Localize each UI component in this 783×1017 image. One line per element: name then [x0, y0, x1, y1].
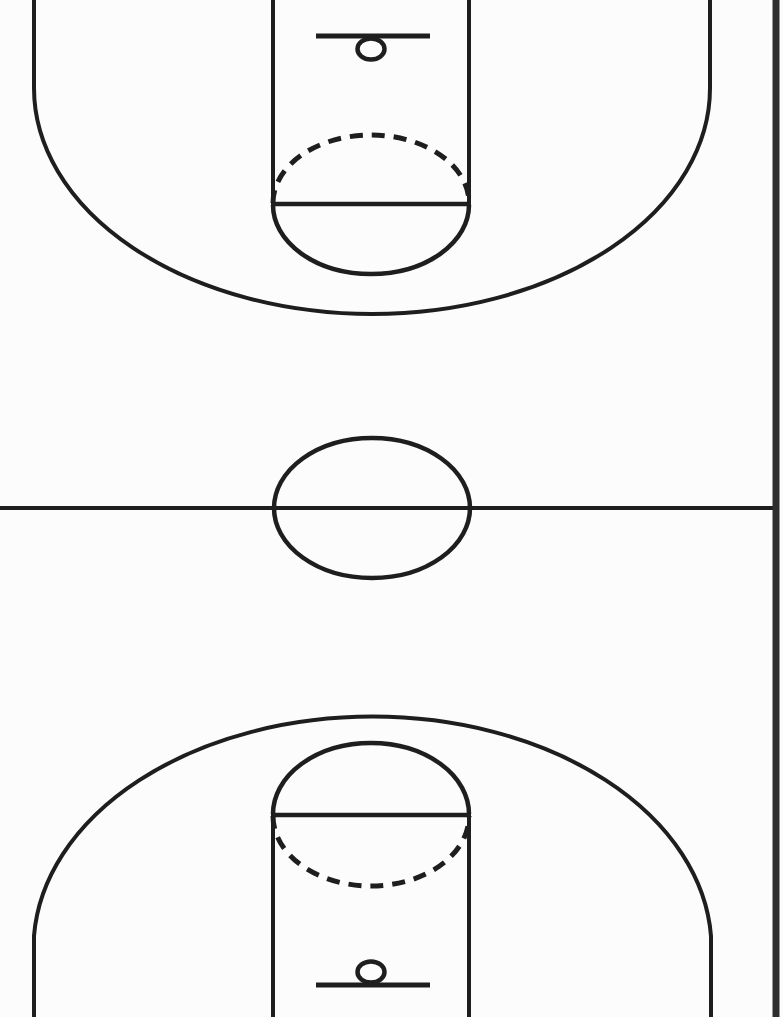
scanned-page — [0, 0, 783, 1017]
court-svg — [0, 0, 783, 1017]
